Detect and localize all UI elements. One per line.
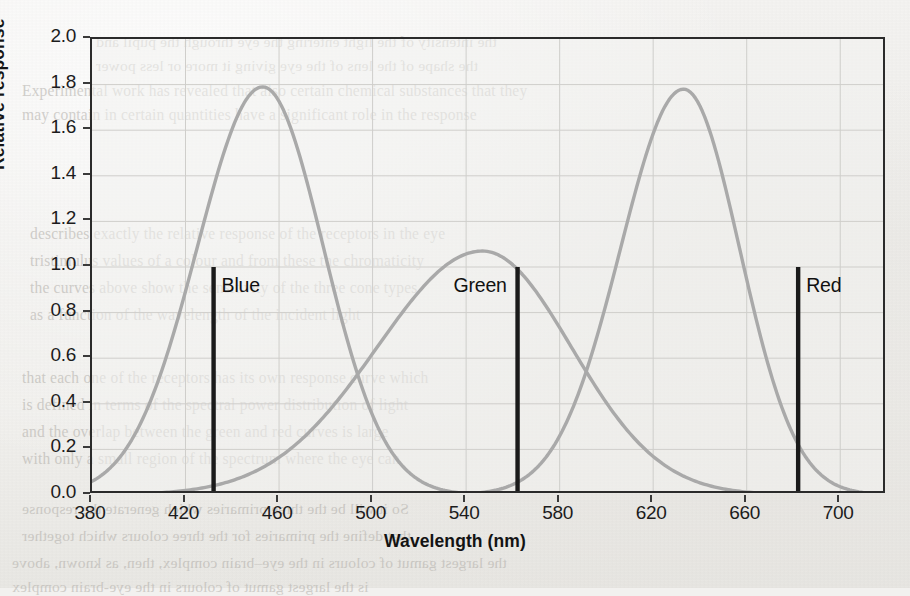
x-tick-mark: [557, 495, 559, 502]
x-tick-label: 540: [429, 502, 499, 524]
x-tick-label: 500: [336, 502, 406, 524]
x-tick-label: 580: [523, 502, 593, 524]
x-tick-mark: [837, 495, 839, 502]
x-tick-mark: [463, 495, 465, 502]
x-tick-mark: [744, 495, 746, 502]
x-tick-label: 660: [710, 502, 780, 524]
x-tick-mark: [89, 495, 91, 502]
x-tick-label: 420: [149, 502, 219, 524]
x-axis-title: Wavelength (nm): [0, 531, 910, 552]
x-tick-mark: [370, 495, 372, 502]
x-tick-label: 620: [616, 502, 686, 524]
x-tick-mark: [183, 495, 185, 502]
x-tick-label: 380: [55, 502, 125, 524]
x-tick-mark: [650, 495, 652, 502]
x-tick-label: 700: [803, 502, 873, 524]
x-tick-label: 460: [242, 502, 312, 524]
x-tick-mark: [276, 495, 278, 502]
